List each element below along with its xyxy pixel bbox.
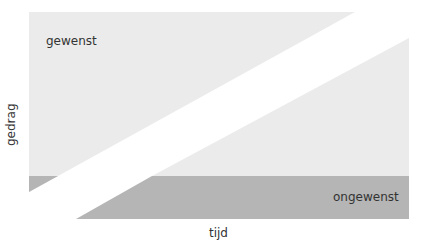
undesired-label: ongewenst bbox=[333, 190, 399, 204]
x-axis-label: tijd bbox=[209, 226, 228, 240]
upper-region-dark-band bbox=[29, 176, 58, 192]
y-axis-label: gedrag bbox=[4, 103, 18, 146]
behavior-over-time-diagram: gewenst ongewenst tijd gedrag bbox=[0, 0, 424, 249]
desired-label: gewenst bbox=[46, 34, 97, 48]
